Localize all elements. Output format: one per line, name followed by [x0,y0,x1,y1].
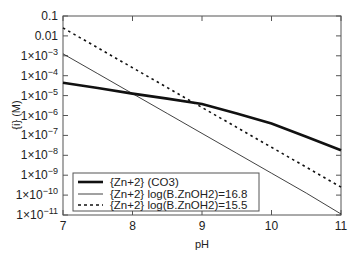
y-tick-label: 0.01 [35,29,59,43]
x-tick-label: 8 [129,219,136,233]
y-tick-label: 1×10−5 [21,87,58,103]
y-tick-label: 1×10−9 [21,166,58,182]
y-tick-label: 0.1 [41,9,58,23]
y-tick-label: 1×10−11 [16,206,58,222]
y-tick-label: 1×10−4 [21,67,58,83]
y-tick-label: 1×10−3 [21,47,58,63]
x-tick-label: 10 [265,219,279,233]
x-tick-labels: 7891011 [60,219,348,233]
x-tick-label: 9 [199,219,206,233]
y-axis-label: {i} (M) [10,100,22,129]
y-tick-label: 1×10−10 [16,186,58,202]
x-axis-label: pH [195,238,209,250]
x-tick-label: 7 [60,219,67,233]
legend-item-label: {Zn+2} log(B.ZnOH2)=15.5 [110,199,247,211]
y-tick-labels: 0.10.011×10−31×10−41×10−51×10−61×10−71×1… [16,9,59,222]
legend-item-label: {Zn+2} (CO3) [110,176,179,188]
legend: {Zn+2} (CO3) {Zn+2} log(B.ZnOH2)=16.8 {Z… [73,173,259,211]
y-tick-label: 1×10−8 [21,146,58,162]
x-tick-label: 11 [335,219,348,233]
y-tick-label: 1×10−7 [21,126,58,142]
chart: 7891011 0.10.011×10−31×10−41×10−51×10−61… [0,0,352,259]
y-tick-label: 1×10−6 [21,107,58,123]
